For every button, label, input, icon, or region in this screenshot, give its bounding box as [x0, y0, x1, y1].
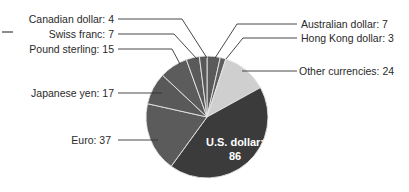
leader-australian [215, 24, 297, 58]
label-hong-kong-dollar: Hong Kong dollar: 3 [301, 32, 394, 44]
label-japanese-yen: Japanese yen: 17 [31, 87, 114, 99]
label-euro: Euro: 37 [71, 134, 111, 146]
currency-pie-chart: Canadian dollar: 4 Swiss franc: 7 Pound … [0, 0, 409, 192]
label-us-dollar-line1: U.S. dollar: [206, 136, 264, 148]
leader-hongkong [226, 38, 297, 59]
pie-slices [146, 56, 268, 178]
leader-canadian [118, 19, 207, 58]
label-australian-dollar: Australian dollar: 7 [301, 18, 388, 30]
leader-swiss [118, 34, 197, 59]
label-us-dollar-line2: 86 [229, 150, 241, 162]
label-swiss-franc: Swiss franc: 7 [49, 28, 115, 40]
label-canadian-dollar: Canadian dollar: 4 [29, 13, 114, 25]
label-pound-sterling: Pound sterling: 15 [29, 43, 114, 55]
leader-pound [118, 49, 180, 64]
label-other-currencies: Other currencies: 24 [299, 65, 394, 77]
